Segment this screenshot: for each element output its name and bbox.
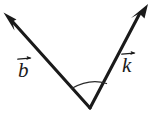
vector-k-label: k [122,55,131,76]
vector-b-label: b [18,60,29,81]
vector-arrow-accent-icon [17,55,32,62]
vector-k-group [90,4,148,108]
vector-b-arrowhead [4,13,17,31]
vector-k-glyph: k [122,55,131,76]
vector-angle-figure: b k [0,0,156,113]
vector-arrow-accent-icon [121,50,136,57]
vector-k-shaft [90,13,140,108]
vector-b-glyph: b [18,60,29,81]
